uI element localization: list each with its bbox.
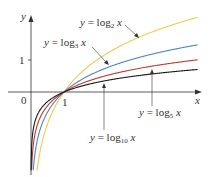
label-log5: y = log5 x	[138, 106, 181, 120]
label-log3: y = log3 x	[43, 36, 86, 50]
x-tick-label-1: 1	[62, 96, 68, 108]
label-log2: y = log2 x	[79, 16, 122, 30]
pointer-log2	[125, 25, 137, 36]
pointer-log5-arrow-icon	[150, 69, 154, 74]
y-axis-arrow-icon	[29, 15, 34, 22]
pointer-log10-arrow-icon	[102, 83, 106, 88]
label-log10: y = log10 x	[89, 131, 135, 145]
origin-label: 0	[21, 94, 27, 106]
y-tick-label-1: 1	[19, 54, 25, 66]
x-axis-label: x	[194, 94, 200, 106]
y-axis-label: y	[20, 10, 26, 22]
axes: y x 1 1 0	[8, 10, 202, 175]
log-curves-chart: y x 1 1 0 y = log2 x y = log3 x y = log5…	[0, 0, 211, 177]
curve-labels: y = log2 x y = log3 x y = log5 x y = log…	[43, 16, 181, 145]
